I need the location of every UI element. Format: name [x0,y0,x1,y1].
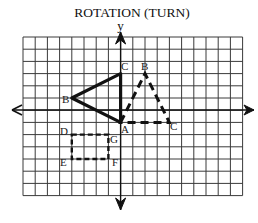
grid [23,37,243,196]
label-b: B [62,93,69,105]
label-c: C [121,60,128,72]
diagram-title: ROTATION (TURN) [74,5,190,20]
label-a: A [121,123,129,135]
coordinate-plane: ROTATION (TURN) y A B C B C D G E F [0,0,258,223]
y-axis-label: y [117,18,124,33]
label-g: G [110,133,118,145]
rotation-diagram: ROTATION (TURN) y A B C B C D G E F [0,0,258,223]
label-e: E [60,156,67,168]
label-c-prime: C [170,120,177,132]
label-d: D [60,125,68,137]
label-b-prime: B [141,60,148,72]
label-f: F [112,156,118,168]
